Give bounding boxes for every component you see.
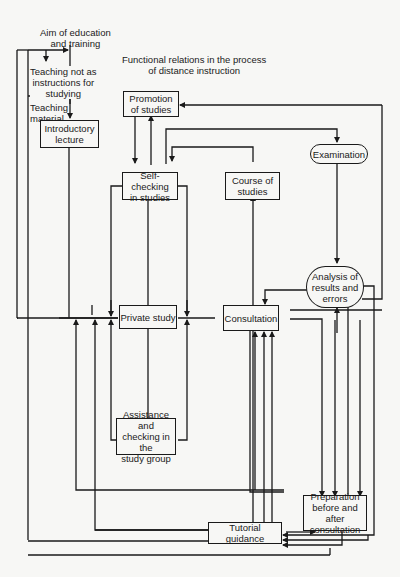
node-assistance: Assistance andchecking in thestudy group	[116, 418, 176, 455]
node-label: results and	[312, 282, 358, 293]
title-line1: Functional relations in the process	[122, 54, 266, 65]
node-self-checking: Self-checkingin studies	[122, 172, 178, 200]
node-label: Private study	[121, 312, 176, 323]
aim-label: Aim of education and training	[40, 27, 111, 49]
node-analysis: Analysis ofresults anderrors	[306, 266, 364, 308]
node-label: of studies	[129, 104, 172, 115]
teaching-material-line1: Teaching	[30, 102, 68, 113]
node-private-study: Private study	[119, 305, 177, 329]
aim-label-line2: and training	[51, 38, 101, 49]
node-label: Self-checking	[123, 170, 177, 192]
node-promotion-of-studies: Promotionof studies	[123, 91, 179, 117]
node-label: Consultation	[225, 313, 278, 324]
node-course-of-studies: Course ofstudies	[225, 172, 280, 200]
diagram-title: Functional relations in the process of d…	[122, 54, 266, 76]
title-line2: of distance instruction	[148, 65, 240, 76]
node-label: study group	[117, 453, 175, 464]
node-label: lecture	[44, 134, 94, 145]
node-introductory-lecture: Introductorylecture	[40, 120, 99, 148]
node-preparation: Preparationbefore and afterconsultation	[303, 495, 367, 531]
teaching-not-line3: studying	[46, 88, 81, 99]
node-label: Assistance and	[117, 409, 175, 431]
node-label: Tutorial guidance	[209, 522, 281, 544]
node-label: consultation	[304, 524, 366, 535]
node-label: before and after	[304, 502, 366, 524]
node-label: Analysis of	[312, 271, 358, 282]
node-tutorial-guidance: Tutorial guidance	[208, 522, 282, 544]
node-label: Introductory	[44, 123, 94, 134]
node-examination: Examination	[310, 144, 368, 164]
node-label: checking in the	[117, 431, 175, 453]
node-label: studies	[232, 186, 273, 197]
teaching-not-line1: Teaching not as	[30, 66, 97, 77]
teaching-not-label: Teaching not as instructions for studyin…	[30, 66, 97, 99]
node-label: Promotion	[129, 93, 172, 104]
node-consultation: Consultation	[223, 305, 279, 331]
node-label: Examination	[313, 149, 365, 160]
node-label: Course of	[232, 175, 273, 186]
node-label: in studies	[123, 192, 177, 203]
node-label: errors	[312, 293, 358, 304]
teaching-not-line2: instructions for	[32, 77, 94, 88]
aim-label-line1: Aim of education	[40, 27, 111, 38]
node-label: Preparation	[304, 491, 366, 502]
